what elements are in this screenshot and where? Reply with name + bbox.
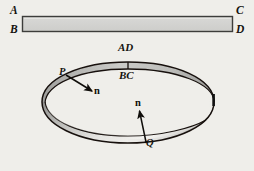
flat-rectangular-strip (23, 17, 233, 32)
label-point-Q: Q (146, 138, 154, 149)
label-point-P: P (59, 67, 65, 78)
label-corner-D: D (236, 24, 244, 36)
label-normal-n-at-Q: n (135, 98, 141, 109)
label-seam-AD: AD (118, 42, 133, 53)
label-corner-B: B (10, 24, 18, 36)
label-normal-n-at-P: n (94, 86, 100, 97)
label-corner-A: A (10, 5, 18, 17)
label-seam-BC: BC (119, 70, 134, 81)
mobius-band-figure (0, 0, 254, 171)
label-corner-C: C (236, 5, 244, 17)
